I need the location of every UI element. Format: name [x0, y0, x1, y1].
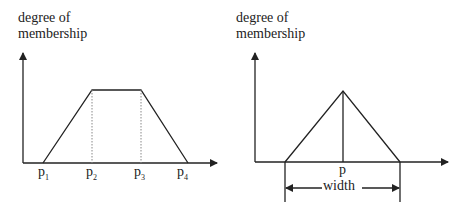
left-chart — [23, 53, 217, 163]
left-ylabel-line2: membership — [18, 26, 87, 42]
tick-p1: p1 — [38, 164, 49, 182]
tick-p4: p4 — [177, 164, 188, 182]
right-ylabel-line2: membership — [236, 26, 305, 42]
width-label: width — [323, 178, 355, 194]
center-label-p: p — [339, 162, 346, 178]
right-ylabel-line1: degree of — [236, 10, 288, 26]
trapezoid-membership-function — [43, 90, 188, 163]
left-ylabel-line1: degree of — [18, 10, 70, 26]
tick-p3: p3 — [134, 164, 145, 182]
tick-p2: p2 — [86, 164, 97, 182]
